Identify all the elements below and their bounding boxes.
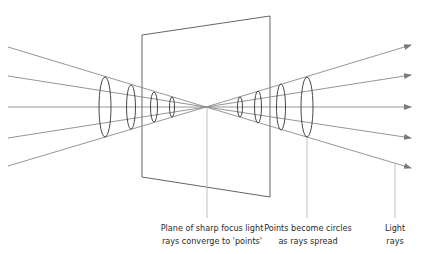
rays-label-line-1: Light: [385, 222, 405, 235]
outgoing-ray-arrow: [206, 75, 411, 107]
plane-label-line-2: rays converge to 'points': [161, 235, 264, 248]
focal-plane-outline: [142, 16, 270, 197]
plane-label-line-1: Plane of sharp focus light: [161, 222, 264, 235]
light-rays: [8, 45, 411, 168]
incoming-ray: [8, 76, 206, 107]
incoming-ray: [8, 47, 206, 107]
outgoing-ray-arrow: [206, 107, 411, 168]
focus-diagram: [0, 0, 421, 254]
plane-of-focus-label: Plane of sharp focus light rays converge…: [161, 222, 264, 248]
circles-label: Points become circles as rays spread: [264, 222, 352, 248]
rays-label-line-2: rays: [385, 235, 405, 248]
circles-label-line-1: Points become circles: [264, 222, 352, 235]
focal-plane: [142, 16, 270, 197]
leader-lines: [207, 107, 395, 218]
incoming-ray: [8, 107, 206, 138]
circles-label-line-2: as rays spread: [264, 235, 352, 248]
outgoing-ray-arrow: [206, 45, 411, 107]
light-rays-label: Light rays: [385, 222, 405, 248]
incoming-ray: [8, 107, 206, 166]
outgoing-ray-arrow: [206, 107, 411, 138]
